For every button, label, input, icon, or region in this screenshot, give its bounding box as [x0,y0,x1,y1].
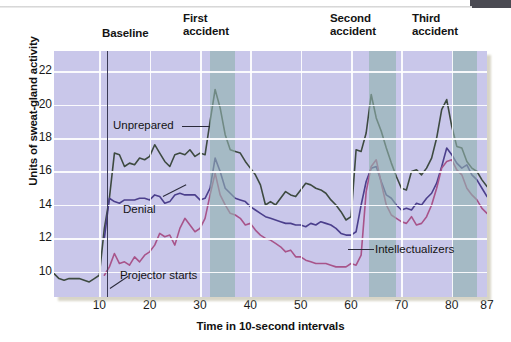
header-first-accident-line1: First [183,12,229,25]
corner-accent-bar [470,0,511,8]
leader-line-unprepared [182,126,210,127]
gridline-vertical [351,51,353,297]
gridline-horizontal [54,171,487,173]
top-divider-rule [0,6,472,8]
series-label-unprepared: Unprepared [113,119,174,131]
leader-line-intellectualizers [348,249,374,250]
gridline-vertical [99,51,101,297]
projector-start-line [107,51,108,297]
plot-area [54,51,487,297]
accident-band [210,51,235,297]
y-tick-label: 12 [8,230,52,244]
y-tick-label: 14 [8,197,52,211]
header-first-accident: First accident [183,12,229,37]
y-tick-label: 20 [8,97,52,111]
gridline-horizontal [54,205,487,207]
y-tick-label: 10 [8,264,52,278]
gridline-horizontal [54,105,487,107]
header-second-accident-line2: accident [330,25,376,38]
y-axis-ticks: 10121416182022 [2,0,52,342]
header-baseline: Baseline [102,27,149,40]
gridline-horizontal [54,272,487,274]
header-third-accident: Third accident [412,12,458,37]
gridline-vertical [401,51,403,297]
header-first-accident-line2: accident [183,25,229,38]
header-second-accident: Second accident [330,12,376,37]
header-third-accident-line1: Third [412,12,458,25]
gridline-horizontal [54,138,487,140]
gridline-vertical [150,51,152,297]
gridline-horizontal [54,71,487,73]
y-tick-label: 22 [8,63,52,77]
y-tick-label: 18 [8,130,52,144]
header-second-accident-line1: Second [330,12,376,25]
accident-band [369,51,397,297]
series-label-intellectualizers: Intellectualizers [375,243,454,255]
gridline-vertical [250,51,252,297]
figure-container: Baseline First accident Second accident … [0,0,511,342]
y-tick-label: 16 [8,163,52,177]
gridline-vertical [301,51,303,297]
gridline-vertical [452,51,454,297]
gridline-horizontal [54,238,487,240]
accident-band [452,51,477,297]
series-line-intellectualizers [104,160,487,275]
series-lines-group [54,51,487,297]
annotation-projector-starts: Projector starts [120,269,197,281]
series-label-denial: Denial [123,203,156,215]
header-third-accident-line2: accident [412,25,458,38]
gridline-vertical [200,51,202,297]
x-axis-ticks: 102030405060708087 [0,298,511,318]
x-axis-label: Time in 10-second intervals [54,320,487,332]
